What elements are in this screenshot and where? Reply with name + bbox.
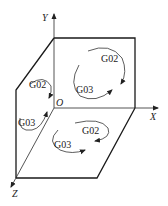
- yz-g03-label: G03: [18, 117, 35, 128]
- x-axis-label: X: [149, 111, 157, 122]
- xy-g03-label: G03: [76, 84, 93, 95]
- xy-g02-label: G02: [101, 53, 118, 64]
- z-axis-label: Z: [12, 188, 18, 199]
- zx-g03-label: G03: [54, 139, 71, 150]
- xy-arcs: G02 G03: [74, 48, 125, 99]
- yz-g02-label: G02: [29, 79, 46, 90]
- circular-interpolation-diagram: Y X Z O G02 G03 G02 G03 G02 G03: [0, 0, 168, 206]
- yz-plane: [16, 38, 54, 178]
- y-axis-label: Y: [42, 12, 49, 23]
- axes: [11, 14, 158, 187]
- origin-label: O: [56, 97, 63, 108]
- zx-g02-label: G02: [82, 125, 99, 136]
- zx-arcs: G02 G03: [52, 121, 108, 153]
